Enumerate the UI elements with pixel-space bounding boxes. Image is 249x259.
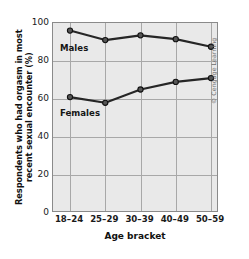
x-axis-tick-labels: 18–2425–2930–3940–4950–59 (52, 214, 218, 228)
x-tick-label: 18–24 (49, 214, 89, 224)
series-label-males: Males (60, 43, 88, 53)
data-point (173, 79, 178, 84)
copyright-credit: © Cengage Learning (210, 8, 217, 104)
y-axis-tick-labels: 020406080100 (26, 0, 49, 259)
y-tick-label: 80 (27, 56, 49, 65)
x-axis-title: Age bracket (52, 231, 218, 241)
y-tick-label: 40 (27, 132, 49, 141)
y-tick-label: 0 (27, 208, 49, 217)
x-tick-label: 30–39 (120, 214, 160, 224)
series-label-females: Females (60, 108, 100, 118)
x-tick-label: 50–59 (190, 214, 230, 224)
y-tick-label: 60 (27, 94, 49, 103)
data-point (67, 95, 72, 100)
x-tick-label: 40–49 (155, 214, 195, 224)
chart-figure: Respondents who had orgasm in most recen… (0, 0, 249, 259)
plot-area: Males Females (52, 22, 218, 212)
data-point (103, 38, 108, 43)
x-tick-label: 25–29 (84, 214, 124, 224)
data-point (67, 28, 72, 33)
data-point (103, 100, 108, 105)
data-point (173, 37, 178, 42)
y-tick-label: 20 (27, 170, 49, 179)
data-point (138, 33, 143, 38)
data-point (138, 87, 143, 92)
y-tick-label: 100 (27, 18, 49, 27)
